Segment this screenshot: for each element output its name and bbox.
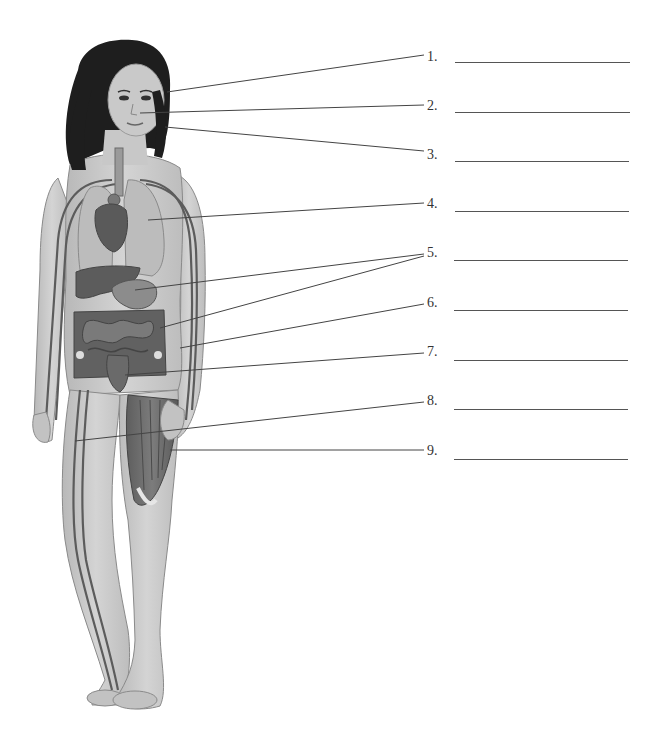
- answer-blank[interactable]: [455, 161, 629, 162]
- leader-line-6: [180, 304, 424, 348]
- label-number: 3.: [427, 148, 438, 162]
- label-number: 8.: [427, 394, 438, 408]
- label-number: 6.: [427, 296, 438, 310]
- label-number: 2.: [427, 99, 438, 113]
- label-number: 7.: [427, 345, 438, 359]
- answer-blank[interactable]: [454, 360, 628, 361]
- answer-blank[interactable]: [454, 409, 628, 410]
- label-number: 5.: [427, 246, 438, 260]
- leader-line-2: [140, 105, 424, 113]
- label-number: 4.: [427, 197, 438, 211]
- answer-blank[interactable]: [454, 260, 628, 261]
- answer-blank[interactable]: [454, 459, 628, 460]
- answer-blank[interactable]: [455, 211, 629, 212]
- anatomy-figure: [0, 0, 662, 737]
- answer-blank[interactable]: [454, 310, 628, 311]
- label-number: 9.: [427, 444, 438, 458]
- answer-blank[interactable]: [455, 112, 630, 113]
- leader-line-3: [165, 127, 424, 151]
- answer-blank[interactable]: [455, 62, 630, 63]
- leader-line-1: [167, 55, 424, 92]
- label-number: 1.: [427, 50, 438, 64]
